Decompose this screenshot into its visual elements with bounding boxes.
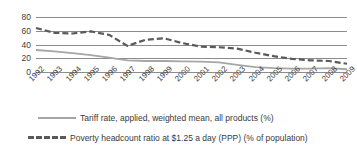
plot-area bbox=[36, 17, 347, 72]
y-tick-label-60: 60 bbox=[0, 27, 31, 36]
y-tick-label-80: 80 bbox=[0, 13, 31, 22]
legend-swatch-dashed-icon bbox=[28, 133, 66, 143]
series-lines bbox=[36, 17, 347, 72]
series-line-1 bbox=[36, 28, 347, 64]
x-axis-labels: 1992199319941995199619971998199920002001… bbox=[36, 73, 347, 107]
y-axis-labels: 020406080 bbox=[0, 17, 31, 72]
y-tick-label-40: 40 bbox=[0, 41, 31, 50]
chart-legend: Tariff rate, applied, weighted mean, all… bbox=[0, 108, 353, 148]
legend-item-tariff-rate: Tariff rate, applied, weighted mean, all… bbox=[0, 108, 353, 128]
legend-swatch-solid-icon bbox=[38, 113, 76, 123]
legend-label-tariff-rate: Tariff rate, applied, weighted mean, all… bbox=[80, 113, 274, 123]
y-tick-label-0: 0 bbox=[0, 68, 31, 77]
legend-item-poverty-headcount: Poverty headcount ratio at $1.25 a day (… bbox=[0, 128, 353, 148]
y-tick-label-20: 20 bbox=[0, 54, 31, 63]
legend-label-poverty-headcount: Poverty headcount ratio at $1.25 a day (… bbox=[70, 133, 308, 143]
